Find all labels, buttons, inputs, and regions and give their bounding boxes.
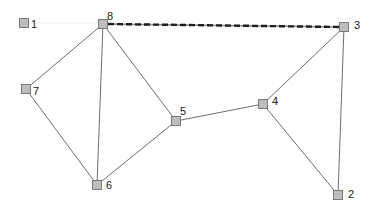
graph-canvas: 1 8 3 7 5 4 6 2 bbox=[0, 0, 382, 212]
edge-4-2[interactable] bbox=[263, 104, 338, 195]
node-2[interactable]: 2 bbox=[334, 188, 355, 200]
edge-8-7[interactable] bbox=[26, 24, 103, 89]
edge-4-3[interactable] bbox=[263, 27, 344, 104]
node-5-label: 5 bbox=[180, 105, 186, 117]
node-2-box[interactable] bbox=[334, 191, 343, 200]
edge-6-5[interactable] bbox=[97, 121, 176, 185]
node-8-label: 8 bbox=[107, 10, 113, 22]
edge-5-4[interactable] bbox=[176, 104, 263, 121]
node-1-box[interactable] bbox=[20, 19, 29, 28]
node-3[interactable]: 3 bbox=[340, 19, 361, 32]
node-1-label: 1 bbox=[31, 18, 37, 30]
node-5[interactable]: 5 bbox=[172, 105, 187, 126]
edge-8-6[interactable] bbox=[97, 24, 103, 185]
node-4[interactable]: 4 bbox=[259, 95, 279, 109]
node-4-label: 4 bbox=[272, 95, 278, 107]
node-5-box[interactable] bbox=[172, 117, 181, 126]
node-6-box[interactable] bbox=[93, 181, 102, 190]
node-8[interactable]: 8 bbox=[99, 10, 114, 29]
edge-7-6[interactable] bbox=[26, 89, 97, 185]
node-4-box[interactable] bbox=[259, 100, 268, 109]
node-7-label: 7 bbox=[33, 85, 39, 97]
edge-8-5[interactable] bbox=[103, 24, 176, 121]
nodes-layer: 1 8 3 7 5 4 6 2 bbox=[20, 10, 361, 200]
node-1[interactable]: 1 bbox=[20, 18, 38, 30]
node-3-box[interactable] bbox=[340, 23, 349, 32]
edge-3-2[interactable] bbox=[338, 27, 344, 195]
node-2-label: 2 bbox=[348, 188, 354, 200]
node-3-label: 3 bbox=[354, 19, 360, 31]
node-7-box[interactable] bbox=[22, 85, 31, 94]
node-6-label: 6 bbox=[106, 179, 112, 191]
